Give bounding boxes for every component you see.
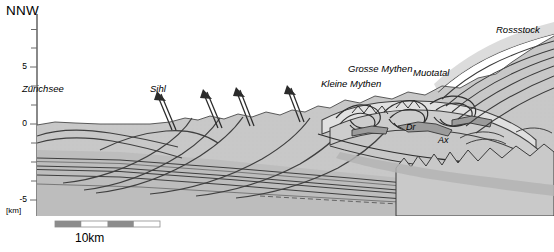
place-label-muotatal: Muotatal	[413, 67, 449, 78]
place-label-rossstock: Rossstock	[496, 24, 540, 35]
cross-section-drawing	[0, 0, 554, 252]
y-axis	[30, 14, 37, 216]
scale-bar-label: 10km	[75, 231, 104, 245]
y-axis-unit-label: [km]	[6, 206, 21, 215]
place-label-kleine-mythen: Kleine Mythen	[321, 78, 381, 89]
unit-label-ax: Ax	[438, 135, 449, 145]
scale-bar	[55, 221, 160, 227]
geology-body	[37, 22, 554, 216]
place-label-sihl: Sihl	[150, 83, 166, 94]
y-axis-tick-label-0: 0	[10, 118, 27, 128]
geologic-cross-section-figure: NNW 5 0 -5 [km] Zürichsee Sihl Grosse My…	[0, 0, 554, 252]
thrust-arrowheads	[154, 85, 296, 101]
y-axis-tick-label-5: 5	[10, 61, 27, 71]
orientation-label-nnw: NNW	[6, 3, 39, 18]
y-axis-tick-label-minus5: -5	[6, 194, 27, 204]
place-label-zurichsee: Zürichsee	[22, 83, 64, 94]
unit-label-dr: Dr	[406, 122, 416, 132]
place-label-grosse-mythen: Grosse Mythen	[348, 63, 412, 74]
